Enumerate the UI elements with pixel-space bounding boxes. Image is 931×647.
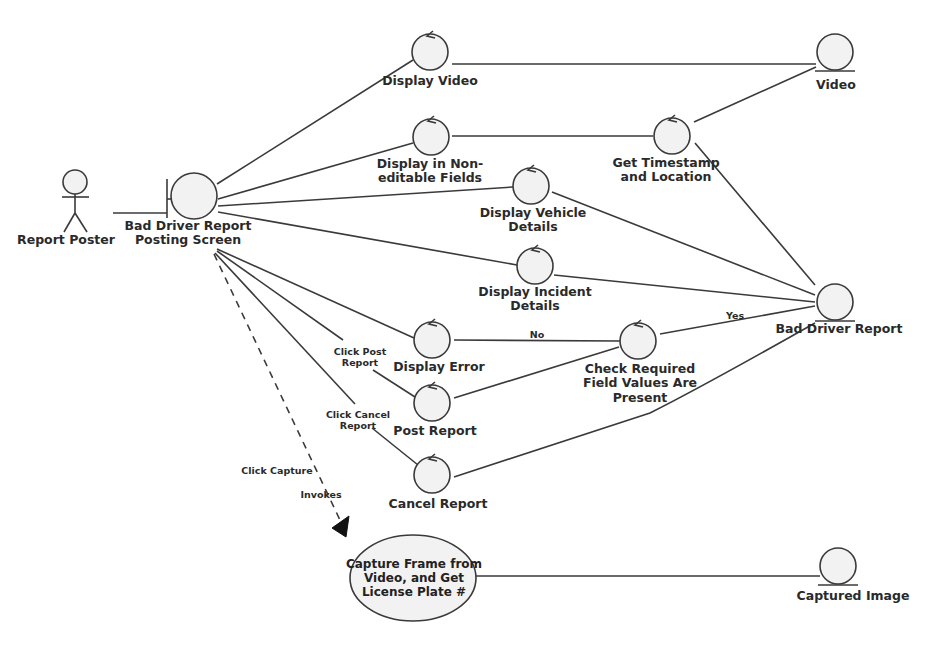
label-line1: Get Timestamp [612,156,719,170]
boundary-label: Bad Driver Report Posting Screen [124,219,251,248]
label-line2: editable Fields [377,171,484,185]
label-captured-image: Captured Image [797,589,910,603]
edge-label-click-capture: Click Capture [241,466,312,477]
label-display-video: Display Video [382,74,478,88]
edge-label-click-cancel: Click Cancel Report [326,410,390,432]
label-line2: Details [480,220,587,234]
label-cancel-report: Cancel Report [389,497,488,511]
actor-label: Report Poster [17,233,115,247]
label-line2: Video, and Get [346,572,482,586]
boundary-label-line2: Posting Screen [124,233,251,247]
edge-boundary-click-post [217,251,343,340]
label-display-error: Display Error [393,360,485,374]
label-line2: Details [478,299,591,313]
label-line2: and Location [612,170,719,184]
label-line2: Report [334,358,386,369]
label-post-report: Post Report [393,424,476,438]
edge-label-yes: Yes [726,311,744,322]
label-line1: Display Vehicle [480,206,587,220]
edge-label-invokes: Invokes [300,490,341,501]
control-post-report[interactable] [414,382,450,421]
label-display-non-editable: Display in Non- editable Fields [377,157,484,186]
control-display-video[interactable] [412,31,448,70]
control-display-error[interactable] [414,319,450,358]
edge-boundary-display-incident [218,212,517,265]
label-bad-driver-report: Bad Driver Report [775,322,902,336]
edge-boundary-display-vehicle [218,187,513,206]
entity-bad-driver-report[interactable] [815,284,855,321]
label-line1: Check Required [583,362,697,376]
entity-video[interactable] [815,34,855,71]
label-display-vehicle: Display Vehicle Details [480,206,587,235]
control-display-incident[interactable] [517,245,553,284]
label-get-timestamp: Get Timestamp and Location [612,156,719,185]
label-line3: License Plate # [346,586,482,600]
control-display-non-editable[interactable] [413,116,449,155]
entity-captured-image[interactable] [818,548,858,585]
label-video: Video [816,78,856,92]
boundary-posting-screen[interactable] [167,173,217,219]
actor-report-poster [62,170,89,232]
control-check-required[interactable] [620,320,656,359]
label-line1: Display Incident [478,285,591,299]
robustness-diagram: Report Poster Bad Driver Report Posting … [0,0,931,647]
boundary-label-line1: Bad Driver Report [124,219,251,233]
label-capture-frame: Capture Frame from Video, and Get Licens… [346,558,482,599]
actor-left-leg [64,213,75,232]
edge-timestamp-video [694,67,816,122]
label-line1: Display in Non- [377,157,484,171]
label-line2: Report [326,421,390,432]
label-line1: Capture Frame from [346,558,482,572]
boundary-circle-icon [171,173,217,219]
edge-boundary-click-cancel [215,253,355,404]
label-line2: Field Values Are [583,376,697,390]
actor-right-leg [75,213,87,232]
edge-label-click-post: Click Post Report [334,347,386,369]
label-check-required: Check Required Field Values Are Present [583,362,697,405]
label-line3: Present [583,391,697,405]
edge-label-no: No [530,330,544,341]
control-get-timestamp[interactable] [654,115,690,154]
control-cancel-report[interactable] [414,454,450,493]
actor-head-icon [63,170,87,194]
label-display-incident: Display Incident Details [478,285,591,314]
edge-boundary-display-error [217,249,414,338]
control-display-vehicle[interactable] [513,165,549,204]
arrowhead-icon [332,516,349,537]
